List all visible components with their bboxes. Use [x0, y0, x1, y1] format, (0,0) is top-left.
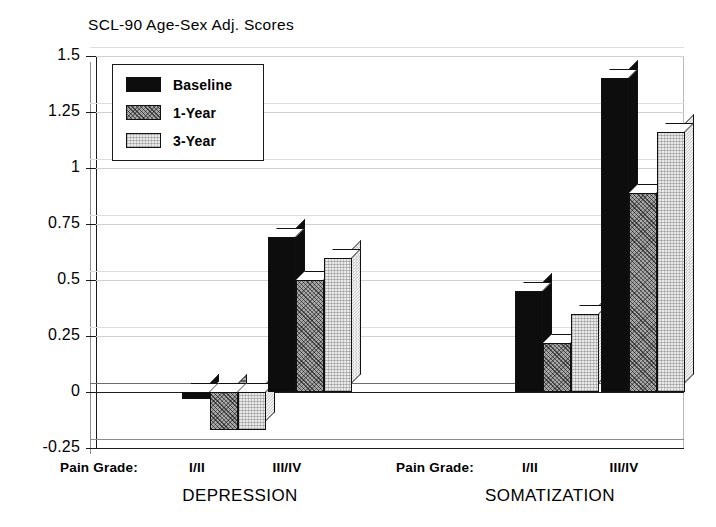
chart-title: SCL-90 Age-Sex Adj. Scores — [88, 16, 294, 34]
legend-item-1-year: 1-Year — [126, 103, 216, 122]
bar — [324, 258, 352, 392]
bar-front-face — [657, 132, 685, 392]
y-axis-tick — [86, 168, 96, 169]
y-axis-tick — [86, 448, 96, 449]
y-axis-tick-label: 1.5 — [57, 46, 80, 64]
dark-hatched-swatch — [126, 105, 161, 120]
y-axis-tick-label: 0 — [71, 382, 80, 400]
y-axis-tick — [86, 112, 96, 113]
bar-front-face — [543, 343, 571, 392]
pain-grade-caption-somatization: Pain Grade: — [396, 460, 474, 475]
bar — [268, 237, 296, 392]
bar — [182, 392, 210, 399]
y-axis-tick — [86, 392, 96, 393]
pain-grade-low-depression: I/II — [167, 460, 227, 475]
bar — [543, 343, 571, 392]
bar-front-face — [210, 392, 238, 430]
bar-front-face — [238, 392, 266, 430]
y-axis-tick-label: 0.5 — [57, 270, 80, 288]
legend-label: Baseline — [173, 77, 232, 93]
legend-label: 1-Year — [173, 105, 216, 121]
axis-bottom — [96, 448, 684, 449]
y-axis-tick-label: -0.25 — [43, 438, 80, 456]
bar-front-face — [324, 258, 352, 392]
bar-front-face — [571, 314, 599, 392]
legend-item-3-year: 3-Year — [126, 131, 216, 150]
pain-grade-high-somatization: III/IV — [589, 460, 659, 475]
y-axis-tick — [86, 280, 96, 281]
light-stippled-swatch — [126, 133, 161, 148]
bar — [657, 132, 685, 392]
bar — [210, 392, 238, 430]
group-label-somatization: SOMATIZATION — [440, 486, 660, 506]
y-axis-tick-label: 0.25 — [48, 326, 80, 344]
y-axis-tick — [86, 224, 96, 225]
pain-grade-high-depression: III/IV — [252, 460, 322, 475]
gridline-back — [90, 47, 684, 48]
legend-item-baseline: Baseline — [126, 75, 232, 94]
bar — [571, 314, 599, 392]
bar-side-face — [352, 240, 361, 383]
legend-label: 3-Year — [173, 133, 216, 149]
bar-front-face — [268, 237, 296, 392]
legend: Baseline 1-Year 3-Year — [112, 64, 264, 161]
axis-bottom-back — [90, 439, 684, 440]
gridline — [96, 56, 684, 57]
gridline — [96, 280, 684, 281]
plot-depth-wall — [90, 62, 91, 454]
bar-front-face — [629, 193, 657, 392]
gridline — [96, 168, 684, 169]
solid-black-swatch — [126, 77, 161, 92]
pain-grade-caption-depression: Pain Grade: — [60, 460, 138, 475]
y-axis-tick-label: 1.25 — [48, 102, 80, 120]
y-axis-tick-label: 1 — [71, 158, 80, 176]
bar — [296, 280, 324, 392]
bar — [629, 193, 657, 392]
chart-figure: SCL-90 Age-Sex Adj. Scores 1.51.2510.750… — [0, 0, 716, 527]
y-axis-tick-label: 0.75 — [48, 214, 80, 232]
pain-grade-low-somatization: I/II — [500, 460, 560, 475]
bar-front-face — [182, 392, 210, 399]
y-axis-tick — [86, 56, 96, 57]
bar-side-face — [685, 114, 694, 383]
gridline-back — [90, 271, 684, 272]
bar-front-face — [296, 280, 324, 392]
bar-front-face — [601, 78, 629, 392]
bar-front-face — [515, 291, 543, 392]
group-label-depression: DEPRESSION — [140, 486, 340, 506]
bar — [238, 392, 266, 430]
bar — [515, 291, 543, 392]
gridline-back — [90, 215, 684, 216]
bar — [601, 78, 629, 392]
gridline — [96, 224, 684, 225]
y-axis-tick — [86, 336, 96, 337]
